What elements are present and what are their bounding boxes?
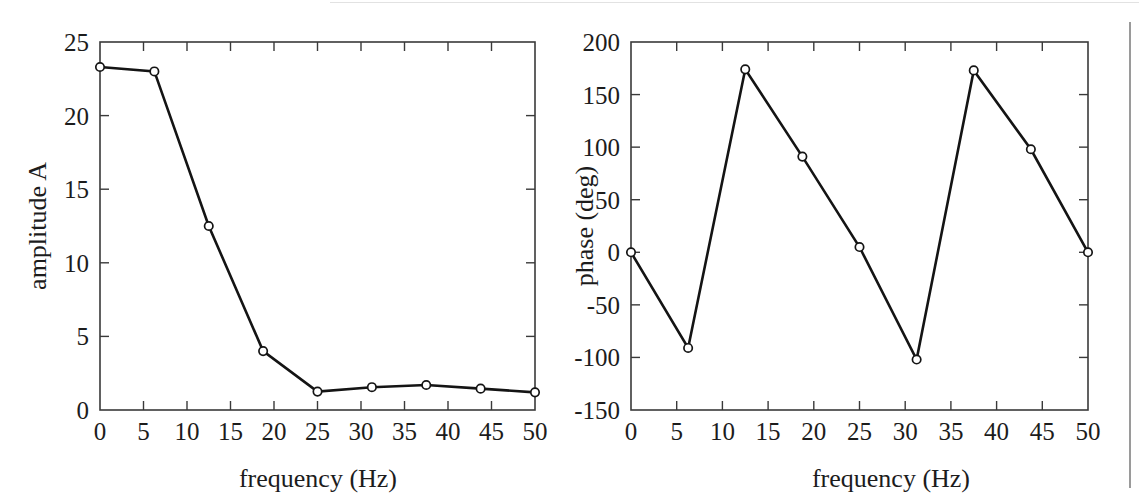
data-point-marker: [627, 248, 635, 256]
x-tick-label: 30: [893, 418, 918, 445]
data-point-marker: [798, 152, 806, 160]
x-tick-label: 25: [305, 418, 330, 445]
phase-y-axis-title: phase (deg): [570, 166, 599, 287]
y-tick-label: 0: [77, 397, 90, 424]
amplitude-axis-frame: [100, 42, 535, 410]
phase-axis-frame: [631, 42, 1088, 410]
y-tick-label: -50: [587, 292, 620, 319]
phase-data-line: [631, 69, 1088, 359]
x-tick-label: 0: [625, 418, 638, 445]
y-tick-label: 150: [583, 82, 621, 109]
amplitude-y-tick-labels: 0510152025: [64, 29, 89, 424]
data-point-marker: [1027, 145, 1035, 153]
y-tick-label: 20: [64, 103, 89, 130]
x-tick-label: 50: [523, 418, 548, 445]
x-tick-label: 10: [710, 418, 735, 445]
data-point-marker: [741, 65, 749, 73]
y-tick-label: 25: [64, 29, 89, 56]
data-point-marker: [96, 63, 104, 71]
data-point-marker: [150, 67, 158, 75]
amplitude-x-axis-title: frequency (Hz): [239, 464, 397, 493]
x-tick-label: 50: [1076, 418, 1101, 445]
amplitude-chart-svg: amplitude A frequency (Hz) 0510152025303…: [0, 0, 570, 503]
x-tick-label: 15: [218, 418, 243, 445]
phase-tick-marks: [631, 42, 1088, 410]
x-tick-label: 25: [847, 418, 872, 445]
y-tick-label: 0: [608, 239, 621, 266]
x-tick-label: 40: [984, 418, 1009, 445]
x-tick-label: 20: [801, 418, 826, 445]
amplitude-data-line: [100, 67, 535, 392]
x-tick-label: 30: [349, 418, 374, 445]
x-tick-label: 10: [175, 418, 200, 445]
data-point-marker: [205, 222, 213, 230]
data-point-marker: [970, 66, 978, 74]
amplitude-data-markers: [96, 63, 539, 397]
x-tick-label: 35: [938, 418, 963, 445]
y-tick-label: 200: [583, 29, 621, 56]
data-point-marker: [1084, 248, 1092, 256]
y-tick-label: 15: [64, 176, 89, 203]
data-point-marker: [684, 344, 692, 352]
phase-x-tick-labels: 05101520253035404550: [625, 418, 1101, 445]
x-tick-label: 0: [94, 418, 107, 445]
y-tick-label: 100: [583, 134, 621, 161]
amplitude-x-tick-labels: 05101520253035404550: [94, 418, 548, 445]
phase-chart-svg: phase (deg) frequency (Hz) 0510152025303…: [569, 0, 1139, 503]
amplitude-chart-panel: amplitude A frequency (Hz) 0510152025303…: [0, 0, 570, 503]
data-point-marker: [259, 347, 267, 355]
x-tick-label: 45: [479, 418, 504, 445]
y-tick-label: 10: [64, 250, 89, 277]
y-tick-label: -150: [574, 397, 620, 424]
x-tick-label: 40: [436, 418, 461, 445]
phase-chart-panel: phase (deg) frequency (Hz) 0510152025303…: [569, 0, 1139, 503]
amplitude-tick-marks: [100, 42, 535, 410]
data-point-marker: [912, 355, 920, 363]
phase-x-axis-title: frequency (Hz): [812, 464, 970, 493]
x-tick-label: 5: [670, 418, 683, 445]
x-tick-label: 35: [392, 418, 417, 445]
x-tick-label: 45: [1030, 418, 1055, 445]
phase-y-axis-title-group: phase (deg): [570, 166, 599, 287]
data-point-marker: [422, 381, 430, 389]
amplitude-y-axis-title-group: amplitude A: [23, 162, 52, 290]
y-tick-label: 5: [77, 323, 90, 350]
x-tick-label: 20: [262, 418, 287, 445]
phase-data-markers: [627, 65, 1092, 364]
x-tick-label: 5: [137, 418, 150, 445]
amplitude-y-axis-title: amplitude A: [23, 162, 52, 290]
data-point-marker: [855, 243, 863, 251]
data-point-marker: [313, 387, 321, 395]
data-point-marker: [368, 383, 376, 391]
y-tick-label: -100: [574, 344, 620, 371]
data-point-marker: [531, 388, 539, 396]
data-point-marker: [476, 384, 484, 392]
y-tick-label: 50: [595, 187, 620, 214]
x-tick-label: 15: [756, 418, 781, 445]
